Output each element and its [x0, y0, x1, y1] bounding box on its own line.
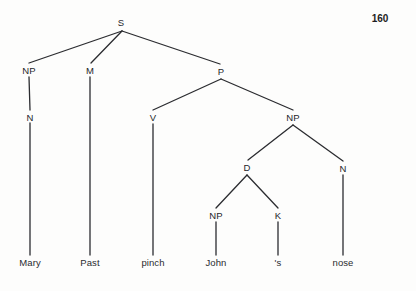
tree-edges-layer: [0, 0, 416, 291]
tree-edge: [153, 79, 221, 110]
tree-node-m: M: [86, 65, 94, 76]
tree-edge: [293, 125, 343, 161]
tree-edge: [29, 31, 122, 63]
tree-edge: [216, 175, 247, 208]
tree-edge: [247, 175, 278, 208]
tree-leaf-l3: pinch: [141, 257, 164, 268]
tree-node-s: S: [118, 17, 124, 28]
tree-leaf-l4: John: [205, 257, 226, 268]
tree-edge: [122, 31, 220, 64]
tree-node-np2: NP: [286, 112, 299, 123]
tree-node-n2: N: [340, 163, 347, 174]
page-number: 160: [372, 13, 389, 24]
tree-edge: [221, 79, 293, 110]
tree-edge: [29, 77, 30, 110]
tree-leaf-l2: Past: [80, 257, 99, 268]
tree-node-np3: NP: [209, 210, 222, 221]
tree-leaf-l5: 's: [275, 257, 282, 268]
tree-node-np1: NP: [22, 65, 35, 76]
tree-edge: [248, 125, 293, 160]
tree-node-k: K: [275, 210, 281, 221]
tree-node-n1: N: [27, 112, 34, 123]
tree-leaf-l1: Mary: [19, 257, 41, 268]
tree-node-p: P: [218, 66, 224, 77]
tree-node-v: V: [150, 112, 156, 123]
tree-node-d: D: [244, 162, 251, 173]
syntax-tree-page: SNPMPNVNPDNNPKMaryPastpinchJohn'snose 16…: [0, 0, 416, 291]
tree-leaf-l6: nose: [332, 257, 353, 268]
